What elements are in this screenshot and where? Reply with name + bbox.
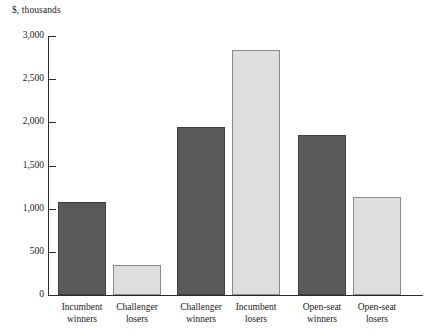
y-axis-tick-label: 2,500 [0, 73, 44, 83]
plot-area [49, 36, 423, 295]
y-axis-tick-label: 1,500 [0, 160, 44, 170]
bar [232, 50, 280, 295]
y-axis-tick-label: 0 [0, 289, 44, 299]
x-axis-baseline [48, 295, 423, 296]
y-axis-title: $, thousands [12, 5, 61, 15]
x-axis-label-line: Challenger [104, 302, 170, 314]
x-axis-label-line: Incumbent [223, 302, 289, 314]
bar [298, 135, 346, 295]
x-axis-label: Challengerlosers [104, 302, 170, 325]
bar [353, 197, 401, 295]
x-axis-label-line: losers [344, 314, 410, 326]
y-axis-tick-label: 1,000 [0, 203, 44, 213]
x-axis-label-line: Open-seat [344, 302, 410, 314]
bar [177, 127, 225, 295]
x-axis-label-line: losers [223, 314, 289, 326]
bar [58, 202, 106, 295]
y-axis-tick [49, 295, 56, 296]
x-axis-label: Open-seatlosers [344, 302, 410, 325]
x-axis-label: Incumbentlosers [223, 302, 289, 325]
bar-chart: $, thousands 3,0002,5002,0001,5001,00050… [0, 0, 429, 336]
y-axis-tick-label: 2,000 [0, 116, 44, 126]
y-axis-tick-label: 3,000 [0, 30, 44, 40]
x-axis-label-line: losers [104, 314, 170, 326]
y-axis-tick-label: 500 [0, 246, 44, 256]
bar [113, 265, 161, 295]
